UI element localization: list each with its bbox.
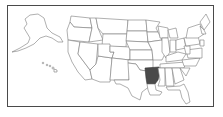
- state-hawaii: [42, 62, 57, 72]
- state-alaska: [12, 14, 63, 52]
- state-arkansas-highlighted: [145, 67, 160, 84]
- contiguous-states: [67, 14, 210, 104]
- us-map: [0, 0, 223, 117]
